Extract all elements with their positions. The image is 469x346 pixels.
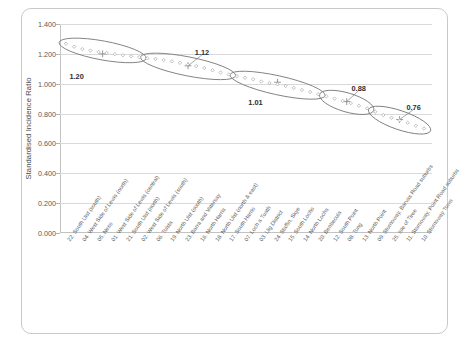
figure-caption: [8, 339, 458, 346]
chart-figure: 0.0000.2000.4000.6000.8001.0001.2001.400…: [0, 0, 469, 346]
x-axis-category-labels: 22. South Uist (south)04. West Side of L…: [0, 0, 469, 346]
